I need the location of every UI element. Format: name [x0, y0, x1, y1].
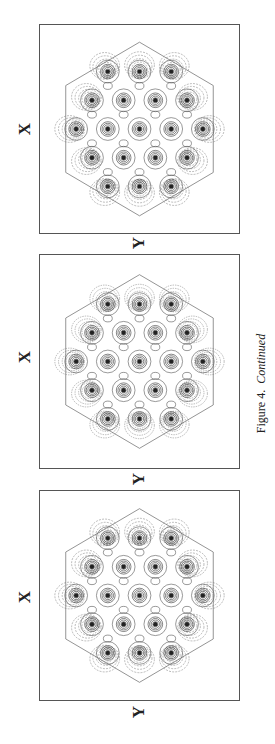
caption-label: Figure 4.: [254, 390, 268, 433]
caption-continued: Continued: [254, 334, 268, 384]
contour-panel-1: [39, 24, 240, 234]
y-axis-label-1: Y: [129, 235, 149, 251]
y-axis-label-2: Y: [129, 471, 149, 487]
contour-panel-3: [39, 490, 240, 701]
x-axis-label-2: X: [15, 349, 35, 365]
contour-plot-3: [40, 491, 239, 700]
contour-plot-2: [40, 255, 239, 468]
contour-panel-2: [39, 254, 240, 469]
y-axis-label-3: Y: [129, 704, 149, 720]
contour-plot-1: [40, 25, 239, 233]
figure-caption: Figure 4. Continued: [254, 319, 269, 449]
x-axis-label-1: X: [15, 121, 35, 137]
x-axis-label-3: X: [15, 589, 35, 605]
